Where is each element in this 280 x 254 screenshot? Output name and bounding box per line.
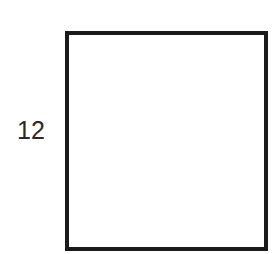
side-length-label: 12: [17, 116, 45, 144]
square-shape: [65, 31, 268, 251]
